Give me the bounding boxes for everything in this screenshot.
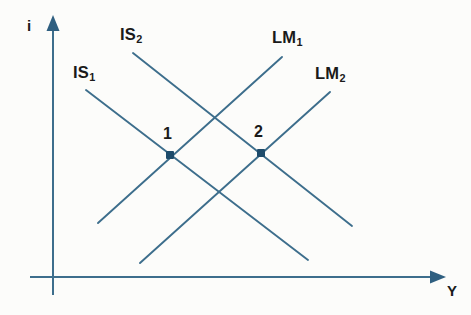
is2-label-subscript: 2 [136, 33, 143, 45]
lm2-curve-label: LM2 [315, 65, 346, 82]
horizontal-axis-label: Y [447, 283, 457, 298]
lm2-curve [140, 92, 330, 263]
lm1-label-subscript: 1 [296, 36, 303, 48]
lm2-label-text: LM [315, 64, 339, 82]
horizontal-axis-arrow-icon [430, 271, 446, 284]
is2-curve-label: IS2 [120, 26, 142, 43]
lm1-label-text: LM [272, 28, 296, 46]
is1-label-text: IS [73, 63, 89, 81]
islm-plot-area [0, 0, 471, 315]
islm-diagram: IS1 IS2 LM1 LM2 1 2 i Y [0, 0, 471, 315]
vertical-axis-arrow-icon [47, 15, 60, 31]
lm1-curve [98, 57, 282, 223]
equilibrium-point-2-marker [257, 149, 265, 157]
equilibrium-point-1-marker [166, 151, 174, 159]
lm2-label-subscript: 2 [339, 72, 346, 84]
equilibrium-point-2-label: 2 [254, 124, 263, 140]
lm1-curve-label: LM1 [272, 29, 303, 46]
is2-label-text: IS [120, 25, 136, 43]
is1-label-subscript: 1 [89, 71, 96, 83]
is1-curve-label: IS1 [73, 64, 95, 81]
vertical-axis-label: i [27, 18, 31, 33]
equilibrium-point-1-label: 1 [163, 126, 172, 142]
is1-curve [86, 90, 308, 260]
